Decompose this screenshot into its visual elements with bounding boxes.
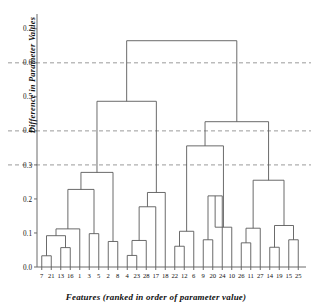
leaf-label: 9: [202, 272, 206, 279]
leaf-label: 15: [285, 272, 292, 279]
dendrogram-link: [81, 172, 113, 241]
x-axis-label-container: Features (ranked in order of parameter v…: [0, 286, 312, 304]
dendrogram-link: [139, 207, 156, 267]
dendrogram-link: [203, 240, 213, 267]
leaf-label: 1: [78, 272, 81, 279]
dendrogram-link: [187, 146, 224, 231]
dendrogram-link: [147, 192, 165, 267]
y-tick-label: 0.7: [23, 25, 32, 33]
dendrogram-link: [89, 234, 99, 267]
leaf-label: 11: [248, 272, 254, 279]
dendrogram-link: [127, 255, 137, 267]
dendrogram-link: [42, 256, 52, 267]
leaf-label: 16: [67, 272, 74, 279]
dendrogram-link: [275, 225, 294, 247]
dendrogram-link: [241, 243, 251, 267]
dendrogram-link: [127, 41, 237, 122]
leaf-label: 7: [40, 272, 44, 279]
y-tick-label: 0.4: [23, 127, 32, 135]
y-tick-label: 0.2: [23, 196, 32, 204]
leaf-label: 3: [88, 272, 92, 279]
leaf-label: 28: [143, 272, 150, 279]
dendrogram-link: [180, 231, 194, 267]
leaf-label: 2: [107, 272, 110, 279]
leaf-label: 8: [116, 272, 120, 279]
dendrogram-link: [68, 189, 94, 233]
leaf-label: 26: [238, 272, 245, 279]
dendrogram-plot: 0.00.10.20.30.40.50.60.77211316135284232…: [0, 0, 312, 307]
leaf-label: 25: [295, 272, 302, 279]
dendrogram-link: [289, 240, 299, 267]
y-tick-label: 0.0: [23, 264, 32, 272]
leaf-label: 23: [133, 272, 140, 279]
dendrogram-link: [47, 236, 66, 256]
leaf-label: 19: [276, 272, 283, 279]
leaf-label: 6: [192, 272, 196, 279]
dendrogram-link: [97, 101, 156, 192]
leaf-label: 14: [266, 272, 273, 279]
leaf-label: 12: [181, 272, 188, 279]
leaf-label: 13: [57, 272, 64, 279]
dendrogram-link: [270, 247, 280, 267]
y-tick-label: 0.5: [23, 93, 32, 101]
leaf-label: 10: [228, 272, 235, 279]
leaf-label: 24: [219, 272, 226, 279]
y-tick-label: 0.3: [23, 162, 32, 170]
leaf-label: 20: [209, 272, 216, 279]
leaf-label: 21: [48, 272, 55, 279]
dendrogram-link: [108, 241, 118, 267]
leaf-label: 17: [152, 272, 159, 279]
dendrogram-link: [61, 248, 71, 267]
dendrogram-link: [175, 246, 185, 267]
leaf-label: 5: [97, 272, 101, 279]
dendrogram-link: [246, 228, 260, 267]
leaf-label: 4: [126, 272, 130, 279]
leaf-label: 22: [171, 272, 178, 279]
y-tick-label: 0.1: [23, 230, 32, 238]
dendrogram-links: [42, 41, 299, 267]
dendrogram-figure: 0.00.10.20.30.40.50.60.77211316135284232…: [0, 0, 312, 307]
x-axis-label: Features (ranked in order of parameter v…: [66, 292, 247, 302]
leaf-label: 27: [257, 272, 264, 279]
y-tick-label: 0.6: [23, 59, 32, 67]
dendrogram-link: [132, 240, 146, 267]
dendrogram-link: [253, 180, 284, 228]
leaf-label: 18: [162, 272, 169, 279]
